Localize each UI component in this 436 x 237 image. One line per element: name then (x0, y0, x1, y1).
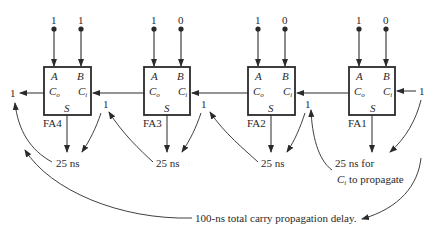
fa3-port-ci: Ci (178, 85, 187, 99)
fa1-port-s: S (370, 102, 376, 114)
fa1-delay-label-line1: 25 ns for (335, 157, 374, 169)
fa4-port-s: S (64, 102, 70, 114)
fa3-port-co: Co (149, 85, 160, 99)
fa1-port-b: B (383, 70, 390, 82)
fa4-label: FA4 (43, 117, 62, 129)
fa2-port-s: S (268, 102, 274, 114)
fa4-port-co: Co (49, 85, 60, 99)
fa1-input-b-value: 0 (383, 14, 389, 26)
fa1-port-a: A (355, 70, 363, 82)
fa2-port-a: A (254, 70, 262, 82)
fa3-port-s: S (164, 102, 170, 114)
full-adder-fa3: 1 0 A B Co Ci S FA3 1 (93, 14, 190, 152)
fa2-carry-in-to-delay-curve (287, 113, 305, 152)
fa2-label: FA2 (247, 117, 266, 129)
total-delay-label: 100-ns total carry propagation delay. (195, 212, 357, 224)
fa1-input-a-value: 1 (356, 14, 362, 26)
fa1-carry-out-value: 1 (305, 98, 311, 110)
fa2-delay-label: 25 ns (261, 157, 285, 169)
full-adder-fa4: 1 1 A B Co Ci S FA4 1 (10, 14, 91, 152)
fa3-label: FA3 (143, 117, 162, 129)
fa4-input-b-value: 1 (78, 14, 84, 26)
fa4-input-a-value: 1 (51, 14, 57, 26)
full-adder-fa2: 1 0 A B Co Ci S FA2 1 (192, 14, 295, 152)
full-adder-fa1: 1 0 A B Co Ci S FA1 1 1 (297, 14, 425, 152)
fa3-carry-out-value: 1 (103, 98, 109, 110)
ripple-carry-adder-diagram: 1 1 A B Co Ci S FA4 1 1 0 A B Co Ci S FA… (0, 0, 436, 237)
fa3-input-b-value: 0 (178, 14, 184, 26)
fa4-delay-to-output-curve (15, 103, 52, 162)
carry-in-value: 1 (419, 85, 425, 97)
fa2-port-co: Co (253, 85, 264, 99)
fa2-input-a-value: 1 (255, 14, 261, 26)
fa1-delay-to-carry-curve (311, 110, 332, 170)
fa2-port-ci: Ci (283, 85, 292, 99)
fa3-input-a-value: 1 (151, 14, 157, 26)
fa1-port-ci: Ci (383, 85, 392, 99)
fa3-port-b: B (177, 70, 184, 82)
fa3-port-a: A (150, 70, 158, 82)
fa2-input-b-value: 0 (282, 14, 288, 26)
fa3-carry-in-to-delay-curve (182, 113, 201, 152)
fa4-delay-label: 25 ns (56, 157, 80, 169)
fa4-port-a: A (50, 70, 58, 82)
fa3-delay-label: 25 ns (156, 157, 180, 169)
fa4-carry-in-to-delay-curve (82, 113, 101, 152)
fa1-port-co: Co (354, 85, 365, 99)
fa4-port-ci: Ci (78, 85, 87, 99)
fa2-carry-out-value: 1 (201, 98, 207, 110)
fa4-port-b: B (77, 70, 84, 82)
fa2-port-b: B (282, 70, 289, 82)
fa1-label: FA1 (348, 117, 367, 129)
fa4-carry-out-value: 1 (10, 87, 16, 99)
fa1-delay-label-line2: Ci to propagate (337, 173, 404, 187)
